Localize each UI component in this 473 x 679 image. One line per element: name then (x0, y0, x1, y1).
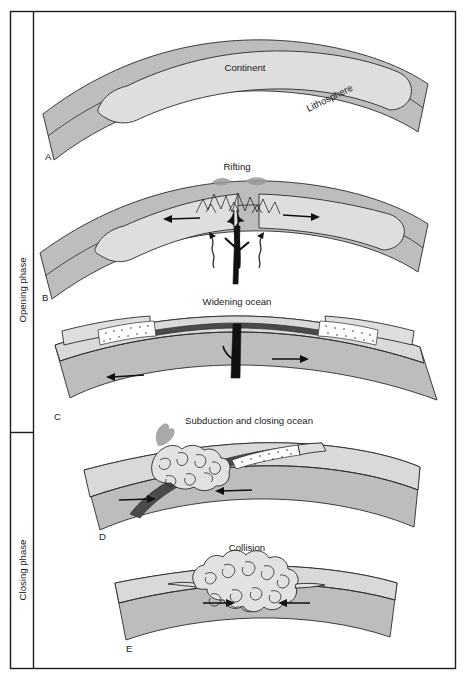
phase-label-opening: Opening phase (17, 257, 28, 322)
panel-title-c: Widening ocean (203, 296, 272, 307)
panel-letter-b: B (42, 292, 48, 303)
diagram-canvas: Opening phase Closing phase Continent Li… (0, 0, 473, 679)
panel-title-b: Rifting (223, 161, 250, 172)
continent-label-a: Continent (224, 62, 265, 73)
ridge-magma-column-c (231, 324, 241, 378)
panel-letter-d: D (99, 531, 106, 542)
panel-letter-e: E (126, 643, 132, 654)
phase-label-closing: Closing phase (17, 540, 28, 601)
panel-letter-c: C (54, 411, 61, 422)
phase-label-opening-text: Opening phase (17, 257, 28, 322)
phase-label-closing-text: Closing phase (17, 540, 28, 601)
panel-title-d: Subduction and closing ocean (185, 415, 313, 426)
wilson-cycle-figure: Opening phase Closing phase Continent Li… (0, 0, 473, 679)
panel-letter-a: A (45, 151, 52, 162)
